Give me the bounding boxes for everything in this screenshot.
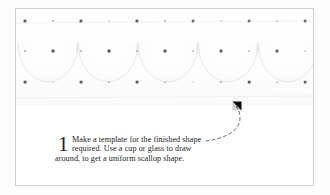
instruction-line: required. Use a cup or glass to draw <box>55 144 230 153</box>
instruction-line: around, to get a uniform scallop shape. <box>55 154 230 163</box>
instruction-text: Make a template for the finished shape r… <box>55 135 230 163</box>
figure-page: 1 Make a template for the finished shape… <box>0 0 330 195</box>
instruction-line: Make a template for the finished shape <box>55 135 230 144</box>
fabric-pattern-graphic <box>16 12 313 105</box>
fabric-photo <box>16 12 313 105</box>
